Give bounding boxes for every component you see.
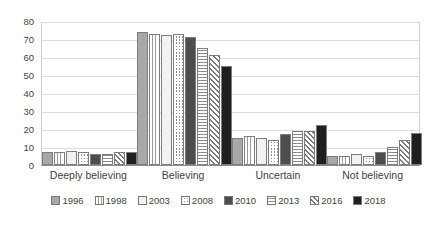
y-axis-tick-label: 30 [23,107,34,117]
bar [197,48,208,165]
bar [54,152,65,165]
category-label: Not believing [325,169,420,182]
bar [221,66,232,165]
bar [102,154,113,165]
bar [351,154,362,165]
legend-swatch-icon [224,196,233,205]
legend-swatch-icon [51,196,60,205]
y-axis: 01020304050607080 [0,22,38,166]
bar [316,125,327,165]
legend-swatch-icon [138,196,147,205]
category-label: Uncertain [231,169,326,182]
bar [244,136,255,165]
legend-swatch-icon [310,196,319,205]
bar [375,152,386,165]
y-axis-tick-label: 80 [23,17,34,27]
bar [304,131,315,165]
category-axis-labels: Deeply believingBelievingUncertainNot be… [41,169,420,182]
bar [363,156,374,165]
plot-area [41,22,420,166]
bar [256,138,267,165]
legend-swatch-icon [181,196,190,205]
bar [90,154,101,165]
bar [42,152,53,165]
category-label: Deeply believing [41,169,136,182]
bar-chart: 01020304050607080 Deeply believingBeliev… [0,0,437,226]
y-axis-tick-label: 10 [23,143,34,153]
legend-item[interactable]: 2008 [181,196,213,206]
legend-label: 1998 [106,196,127,206]
y-axis-tick-label: 0 [29,161,34,171]
y-axis-tick-label: 50 [23,71,34,81]
bar [292,131,303,165]
bar [280,134,291,165]
bar-group [327,22,422,165]
bar [161,35,172,165]
legend-label: 2008 [192,196,213,206]
bar [66,151,77,165]
legend-swatch-icon [95,196,104,205]
legend-label: 1996 [62,196,83,206]
legend-item[interactable]: 2018 [353,196,385,206]
bar-group [232,22,327,165]
bar [137,32,148,165]
bar [339,156,350,165]
bar [78,152,89,165]
y-axis-tick-label: 60 [23,53,34,63]
y-axis-tick-label: 20 [23,125,34,135]
legend: 19961998200320082010201320162018 [0,196,437,206]
legend-label: 2010 [235,196,256,206]
bar-group [42,22,137,165]
legend-swatch-icon [267,196,276,205]
bar [149,34,160,165]
bar-groups [42,22,419,165]
bar-group [137,22,232,165]
legend-label: 2013 [278,196,299,206]
legend-label: 2016 [321,196,342,206]
bar [232,138,243,165]
y-axis-tick-label: 70 [23,35,34,45]
category-label: Believing [136,169,231,182]
bar [185,37,196,165]
bar [327,156,338,165]
legend-item[interactable]: 1998 [95,196,127,206]
bar [126,152,137,165]
y-axis-tick-label: 40 [23,89,34,99]
legend-item[interactable]: 2003 [138,196,170,206]
legend-swatch-icon [353,196,362,205]
legend-label: 2003 [149,196,170,206]
bar [387,147,398,165]
bar [209,55,220,165]
legend-item[interactable]: 2010 [224,196,256,206]
bar [114,152,125,165]
legend-item[interactable]: 1996 [51,196,83,206]
bar [399,140,410,165]
legend-item[interactable]: 2013 [267,196,299,206]
bar [173,34,184,165]
bar [411,133,422,165]
legend-label: 2018 [364,196,385,206]
bar [268,140,279,165]
legend-item[interactable]: 2016 [310,196,342,206]
